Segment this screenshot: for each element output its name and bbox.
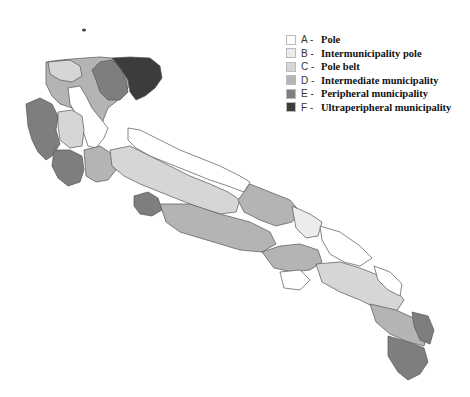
legend-item-b: B - Intermunicipality pole: [286, 47, 451, 60]
legend-label: Ultraperipheral municipality: [321, 102, 451, 113]
legend-code: F -: [301, 102, 321, 113]
legend-label: Intermediate municipality: [321, 75, 439, 86]
legend-code: A -: [301, 34, 321, 45]
legend-item-c: C - Pole belt: [286, 60, 451, 73]
legend-swatch-f: [286, 102, 296, 112]
legend-item-d: D - Intermediate municipality: [286, 74, 451, 87]
region-bari-intermunicipality: [292, 206, 322, 238]
region-taranto-pole: [280, 270, 310, 290]
region-brindisi-pole: [320, 226, 372, 266]
legend-label: Pole: [321, 34, 340, 45]
island-marker: [82, 29, 86, 32]
legend-item-a: A - Pole: [286, 33, 451, 46]
legend-swatch-b: [286, 48, 296, 58]
region-mid-polebelt: [58, 110, 84, 148]
map-legend: A - Pole B - Intermunicipality pole C - …: [286, 33, 451, 114]
legend-swatch-a: [286, 35, 296, 45]
legend-code: B -: [301, 48, 321, 59]
legend-label: Peripheral municipality: [321, 88, 428, 99]
region-south-daunia-peripheral: [52, 150, 84, 186]
legend-item-e: E - Peripheral municipality: [286, 87, 451, 100]
region-taranto-intermediate: [262, 244, 322, 272]
legend-code: D -: [301, 75, 321, 86]
legend-swatch-d: [286, 75, 296, 85]
legend-swatch-c: [286, 62, 296, 72]
legend-code: C -: [301, 61, 321, 72]
region-bari-coast-intermediate: [238, 184, 300, 226]
legend-label: Intermunicipality pole: [321, 48, 422, 59]
legend-item-f: F - Ultraperipheral municipality: [286, 101, 451, 114]
region-murgia-peripheral: [134, 192, 162, 216]
legend-swatch-e: [286, 89, 296, 99]
legend-code: E -: [301, 88, 321, 99]
legend-label: Pole belt: [321, 61, 360, 72]
